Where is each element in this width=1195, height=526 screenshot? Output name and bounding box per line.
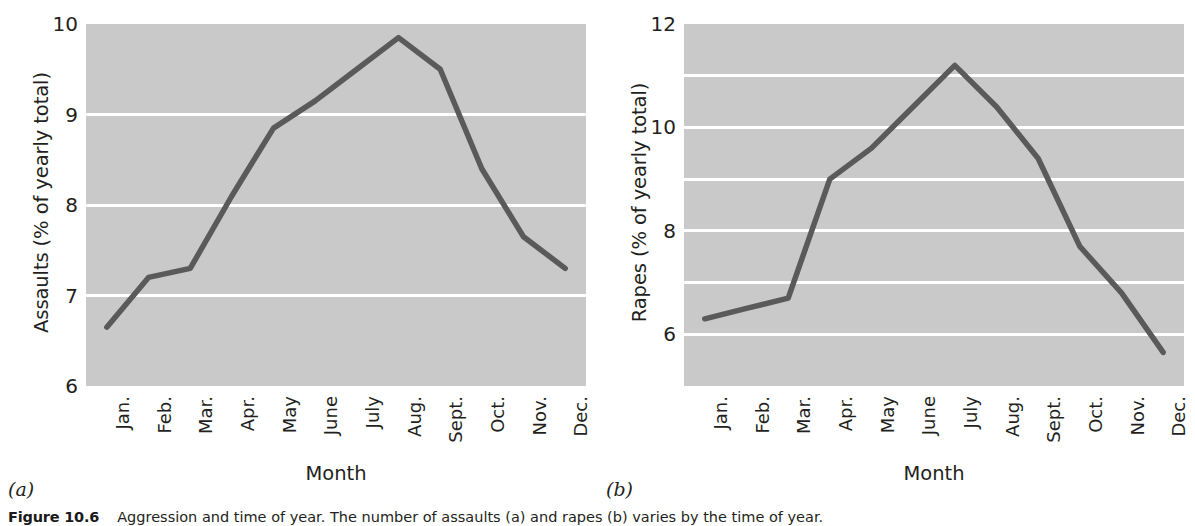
x-tick-label: Dec. — [573, 396, 589, 462]
chart-panel-a: Assaults (% of yearly total) 678910 Jan.… — [0, 0, 597, 510]
x-tick-mark — [953, 386, 956, 395]
y-tick-label: 6 — [663, 324, 676, 344]
x-tick-mark — [1037, 386, 1040, 395]
x-axis-title-a: Month — [86, 462, 586, 485]
y-tick-label: 6 — [65, 376, 78, 396]
x-tick-label: Apr. — [240, 396, 256, 462]
y-axis-tick-labels-b: 681012 — [632, 14, 676, 396]
x-tick-label: Oct. — [1088, 396, 1104, 462]
figure-number: Figure 10.6 — [8, 509, 99, 525]
x-tick-mark — [397, 386, 400, 395]
x-tick-label: Sept. — [448, 396, 464, 462]
x-tick-mark — [230, 386, 233, 395]
y-tick-label: 8 — [65, 195, 78, 215]
x-tick-label: June — [921, 396, 937, 462]
x-tick-label: July — [365, 396, 381, 462]
figure-caption-text: Aggression and time of year. The number … — [117, 509, 823, 525]
x-tick-mark — [787, 386, 790, 395]
x-tick-mark — [912, 386, 915, 395]
y-tick-label: 12 — [651, 14, 676, 34]
x-tick-label: Nov. — [532, 396, 548, 462]
x-tick-label: Feb. — [755, 396, 771, 462]
x-tick-mark — [564, 386, 567, 395]
x-tick-mark — [1078, 386, 1081, 395]
x-tick-label: Apr. — [838, 396, 854, 462]
x-axis-tick-labels-b: Jan.Feb.Mar.Apr.MayJuneJulyAug.Sept.Oct.… — [684, 396, 1184, 462]
x-tick-label: Mar. — [796, 396, 812, 462]
x-tick-label: Sept. — [1046, 396, 1062, 462]
y-axis-tick-labels-a: 678910 — [34, 14, 78, 396]
x-tick-mark — [189, 386, 192, 395]
panel-letter-a: (a) — [8, 478, 34, 500]
x-tick-mark — [522, 386, 525, 395]
x-tick-label: Jan. — [115, 396, 131, 462]
x-tick-label: Jan. — [713, 396, 729, 462]
x-axis-ticks-a — [86, 386, 586, 395]
x-tick-mark — [147, 386, 150, 395]
x-tick-label: Oct. — [490, 396, 506, 462]
figure-caption: Figure 10.6Aggression and time of year. … — [8, 509, 1188, 526]
x-axis-tick-labels-a: Jan.Feb.Mar.Apr.MayJuneJulyAug.Sept.Oct.… — [86, 396, 586, 462]
y-tick-label: 8 — [663, 221, 676, 241]
x-tick-label: Mar. — [198, 396, 214, 462]
y-tick-label: 9 — [65, 105, 78, 125]
x-tick-mark — [355, 386, 358, 395]
x-tick-label: May — [880, 396, 896, 462]
x-tick-label: Aug. — [407, 396, 423, 462]
x-tick-mark — [480, 386, 483, 395]
x-tick-mark — [828, 386, 831, 395]
x-tick-label: Dec. — [1171, 396, 1187, 462]
x-tick-mark — [314, 386, 317, 395]
y-tick-label: 7 — [65, 286, 78, 306]
y-tick-label: 10 — [651, 117, 676, 137]
chart-panel-b: Rapes (% of yearly total) 681012 Jan.Feb… — [598, 0, 1195, 510]
panel-letter-b: (b) — [606, 478, 633, 500]
x-tick-mark — [870, 386, 873, 395]
x-tick-label: Nov. — [1130, 396, 1146, 462]
plot-area-a — [86, 24, 586, 386]
data-line-a — [86, 24, 586, 386]
x-tick-label: Feb. — [157, 396, 173, 462]
x-tick-mark — [995, 386, 998, 395]
x-tick-mark — [745, 386, 748, 395]
x-tick-mark — [1120, 386, 1123, 395]
x-tick-label: Aug. — [1005, 396, 1021, 462]
plot-area-b — [684, 24, 1184, 386]
x-tick-mark — [272, 386, 275, 395]
figure-container: Assaults (% of yearly total) 678910 Jan.… — [0, 0, 1195, 526]
x-tick-label: July — [963, 396, 979, 462]
x-tick-mark — [703, 386, 706, 395]
x-tick-mark — [439, 386, 442, 395]
y-tick-label: 10 — [53, 14, 78, 34]
x-axis-title-b: Month — [684, 462, 1184, 485]
data-line-b — [684, 24, 1184, 386]
x-tick-mark — [1162, 386, 1165, 395]
x-axis-ticks-b — [684, 386, 1184, 395]
x-tick-label: May — [282, 396, 298, 462]
x-tick-label: June — [323, 396, 339, 462]
x-tick-mark — [105, 386, 108, 395]
